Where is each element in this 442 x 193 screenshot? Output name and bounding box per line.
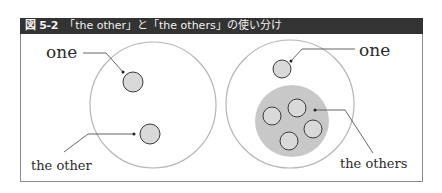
right-others-leader-dot [314, 109, 317, 112]
left-one-label: one [46, 42, 77, 62]
left-panel: one the other [31, 42, 216, 173]
others-item-3 [304, 120, 322, 138]
left-other-leader-dot [133, 133, 136, 136]
right-one-leader-dot [290, 60, 293, 63]
left-other-label: the other [31, 158, 93, 173]
others-item-2 [288, 99, 306, 117]
others-item-4 [280, 132, 298, 150]
right-one-leader-line [291, 49, 355, 61]
right-panel: one the others [226, 40, 407, 171]
others-item-1 [263, 107, 281, 125]
right-one-label: one [359, 40, 390, 60]
left-one-leader-dot [122, 71, 125, 74]
diagram-canvas: one the other one the others [0, 0, 442, 193]
left-one-leader-line [83, 53, 123, 72]
right-others-label: the others [340, 156, 407, 171]
left-one-item [123, 72, 143, 92]
left-other-item [140, 124, 160, 144]
left-set-circle [90, 42, 216, 168]
right-one-item [273, 60, 291, 78]
